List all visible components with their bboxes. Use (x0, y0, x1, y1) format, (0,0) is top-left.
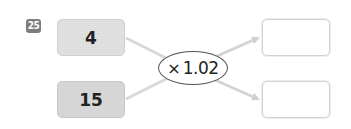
operator-operand: 1.02 (183, 58, 219, 78)
input-value-2: 15 (79, 90, 103, 110)
operator-oval: × 1.02 (158, 51, 228, 85)
arrow-operator-to-output2 (215, 80, 258, 99)
line-input1-to-operator (126, 38, 170, 60)
input-value-1: 4 (85, 28, 97, 48)
answer-box-1[interactable] (262, 19, 330, 56)
answer-box-2[interactable] (262, 81, 330, 118)
input-box-1: 4 (57, 19, 125, 56)
problem-number-badge: 25 (26, 19, 41, 33)
input-box-2: 15 (57, 81, 125, 118)
multiply-icon: × (167, 59, 180, 78)
arrow-operator-to-output1 (215, 38, 258, 57)
line-input2-to-operator (126, 78, 168, 99)
exercise-diagram: 25 4 15 × 1.02 (0, 0, 351, 129)
